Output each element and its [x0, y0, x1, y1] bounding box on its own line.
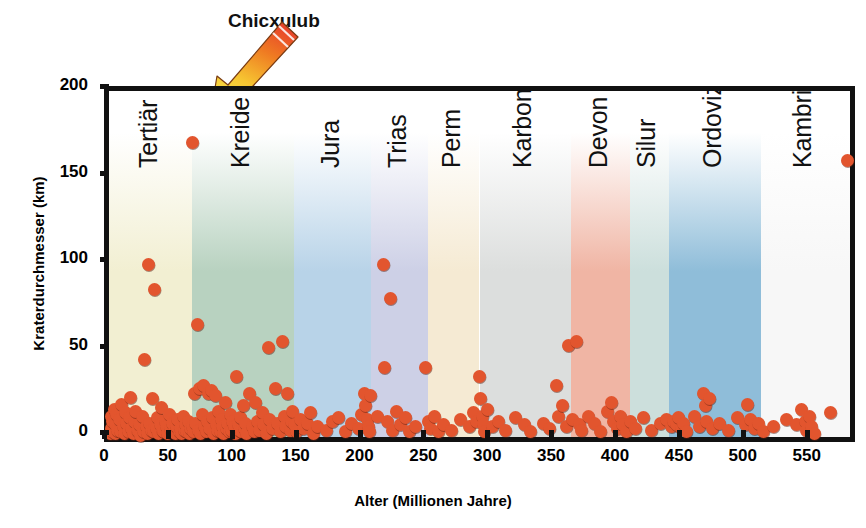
data-point: [741, 398, 754, 411]
x-tick-mark: [485, 430, 490, 439]
data-point: [219, 396, 232, 409]
data-point: [473, 370, 486, 383]
data-point: [419, 361, 432, 374]
x-tick-mark: [230, 430, 235, 439]
x-tick-mark: [166, 430, 171, 439]
data-point: [445, 424, 458, 437]
data-point: [124, 391, 137, 404]
data-point: [594, 425, 607, 438]
data-point: [629, 422, 642, 435]
x-tick-mark: [358, 430, 363, 439]
data-point: [841, 154, 854, 167]
x-tick-mark: [294, 430, 299, 439]
data-point: [363, 425, 376, 438]
data-point: [499, 424, 512, 437]
x-tick-label: 250: [396, 446, 450, 466]
data-point: [304, 406, 317, 419]
data-point: [262, 341, 275, 354]
x-tick-label: 500: [716, 446, 770, 466]
x-tick-label: 300: [460, 446, 514, 466]
x-tick-label: 400: [588, 446, 642, 466]
data-point: [824, 406, 837, 419]
data-point: [637, 411, 650, 424]
x-tick-mark: [102, 430, 107, 439]
x-tick-label: 350: [524, 446, 578, 466]
data-point: [556, 399, 569, 412]
x-tick-mark: [613, 430, 618, 439]
data-point: [142, 258, 155, 271]
y-tick-label: 0: [42, 421, 88, 441]
y-tick-label: 50: [42, 335, 88, 355]
data-point: [148, 283, 161, 296]
y-tick-mark: [100, 257, 109, 262]
data-point: [722, 424, 735, 437]
crater-data-points: [109, 91, 850, 437]
x-tick-label: 50: [141, 446, 195, 466]
y-tick-label: 200: [42, 75, 88, 95]
data-point: [269, 382, 282, 395]
data-point: [680, 425, 693, 438]
x-tick-mark: [805, 430, 810, 439]
x-tick-mark: [741, 430, 746, 439]
y-tick-label: 100: [42, 248, 88, 268]
data-point: [767, 420, 780, 433]
data-point: [384, 292, 397, 305]
data-point: [138, 353, 151, 366]
x-tick-label: 0: [77, 446, 131, 466]
data-point: [703, 392, 716, 405]
y-tick-mark: [100, 84, 109, 89]
x-tick-label: 100: [205, 446, 259, 466]
x-tick-label: 150: [269, 446, 323, 466]
data-point: [575, 424, 588, 437]
x-tick-mark: [677, 430, 682, 439]
data-point: [186, 136, 199, 149]
data-point: [237, 399, 250, 412]
data-point: [276, 335, 289, 348]
data-point: [281, 387, 294, 400]
x-tick-mark: [421, 430, 426, 439]
data-point: [378, 361, 391, 374]
data-point: [230, 370, 243, 383]
data-point: [481, 403, 494, 416]
data-point: [550, 379, 563, 392]
y-tick-mark: [100, 171, 109, 176]
x-tick-label: 200: [333, 446, 387, 466]
data-point: [570, 335, 583, 348]
data-point: [605, 396, 618, 409]
x-tick-label: 450: [652, 446, 706, 466]
data-point: [409, 420, 422, 433]
data-point: [332, 411, 345, 424]
x-tick-mark: [549, 430, 554, 439]
plot-area: TertiärKreideJuraTriasPermKarbonDevonSil…: [104, 86, 855, 442]
data-point: [524, 425, 537, 438]
data-point: [364, 389, 377, 402]
data-point: [191, 318, 204, 331]
data-point: [377, 258, 390, 271]
x-axis-title: Alter (Millionen Jahre): [0, 492, 866, 509]
y-tick-label: 150: [42, 162, 88, 182]
x-tick-label: 550: [780, 446, 834, 466]
crater-diameter-chart: Kraterdurchmesser (km) Alter (Millionen …: [0, 0, 866, 528]
y-tick-mark: [100, 344, 109, 349]
